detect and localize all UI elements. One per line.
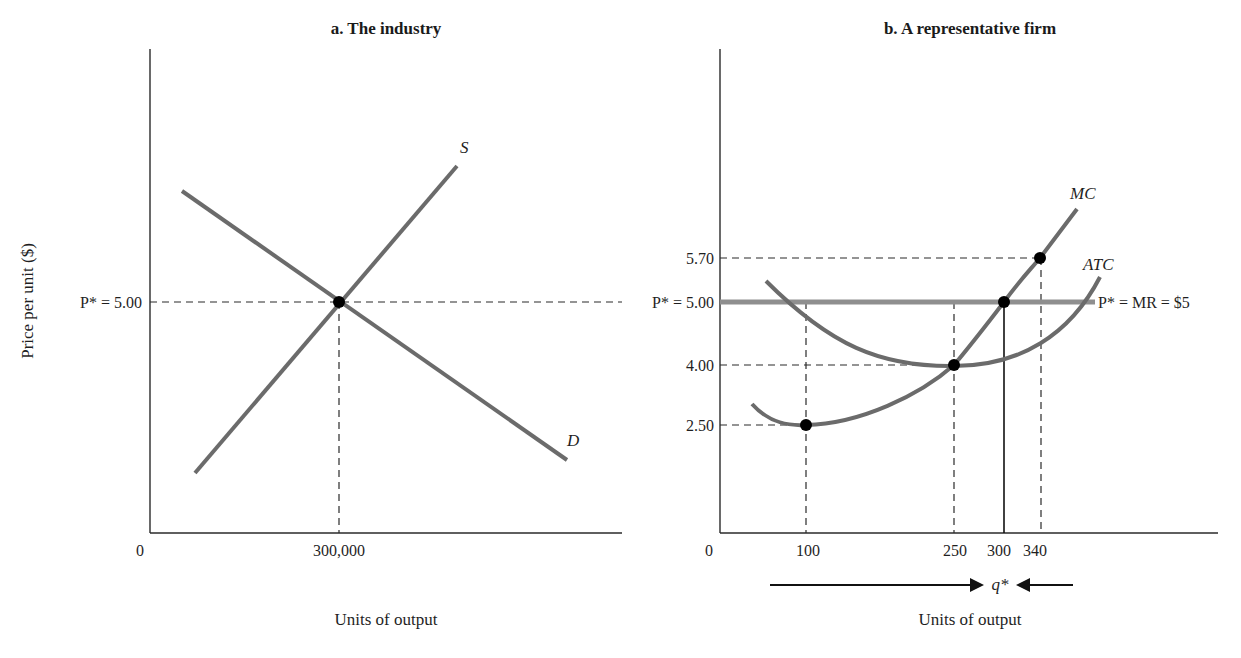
supply-label: S	[460, 138, 469, 157]
panel-b-x-tick-250: 250	[943, 542, 967, 559]
panel-industry: a. The industry Price per unit ($) S D P…	[18, 19, 622, 629]
panel-representative-firm: b. A representative firm MC ATC P* = MR …	[652, 19, 1218, 629]
panel-b-y-tick-pstar: P* = 5.00	[652, 294, 714, 311]
mr-label: P* = MR = $5	[1098, 294, 1190, 311]
panel-b-title: b. A representative firm	[884, 19, 1056, 38]
panel-b-x-tick-100: 100	[796, 542, 820, 559]
arrow-right-icon	[970, 578, 984, 592]
panel-b-x-tick-300: 300	[987, 542, 1011, 559]
panel-b-y-tick-250: 2.50	[686, 417, 714, 434]
demand-label: D	[566, 431, 580, 450]
point-100-250	[800, 419, 812, 431]
panel-a-x-axis-label: Units of output	[335, 610, 438, 629]
atc-curve	[766, 277, 1100, 366]
panel-b-x-tick-340: 340	[1023, 542, 1047, 559]
panel-b-x-tick-0: 0	[705, 542, 713, 559]
panel-b-y-tick-400: 4.00	[686, 357, 714, 374]
panel-a-title: a. The industry	[331, 19, 442, 38]
arrow-left-icon	[1016, 578, 1030, 592]
panel-a-x-tick-300000: 300,000	[313, 542, 365, 559]
mc-label: MC	[1069, 184, 1096, 203]
point-340-570	[1034, 252, 1046, 264]
panel-b-x-axis-label: Units of output	[919, 610, 1022, 629]
mc-curve	[752, 209, 1077, 425]
supply-curve	[195, 166, 457, 473]
panel-b-y-tick-570: 5.70	[686, 250, 714, 267]
qstar-label: q*	[992, 575, 1010, 594]
atc-label: ATC	[1082, 255, 1114, 274]
point-250-400	[948, 359, 960, 371]
panel-a-x-tick-0: 0	[136, 542, 144, 559]
qstar-arrows: q*	[770, 575, 1073, 594]
panel-a-y-tick-pstar: P* = 5.00	[80, 294, 142, 311]
point-300-500	[998, 296, 1010, 308]
y-axis-label: Price per unit ($)	[18, 243, 37, 359]
equilibrium-point	[333, 296, 345, 308]
perfect-competition-figure: a. The industry Price per unit ($) S D P…	[0, 0, 1241, 658]
